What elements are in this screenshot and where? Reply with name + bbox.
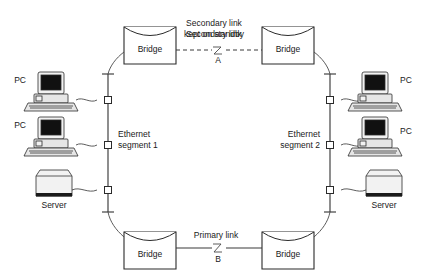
tap-connector-right-2[interactable] [327,142,334,149]
link-primary[interactable]: Primary link B [176,230,262,264]
bridge-top-left[interactable]: Bridge [124,27,176,64]
pc-right-1[interactable]: PC [341,72,412,111]
server-right-label: Server [371,200,396,210]
point-b-label: B [215,254,221,264]
tap-connector-left-3[interactable] [105,187,112,194]
pc-left-2[interactable]: PC [14,117,97,156]
tap-connector-left-2[interactable] [105,142,112,149]
server-left[interactable]: Server [36,170,97,210]
pc-right-2-label: PC [400,126,412,136]
pc-left-2-label: PC [14,120,26,130]
bridge-top-right[interactable]: Bridge [262,27,314,64]
point-a-label: A [215,55,221,65]
ethernet-segment-2-label-line1: Ethernet [288,129,321,139]
pc-left-1[interactable]: PC [14,72,97,111]
bridge-bottom-left[interactable]: Bridge [124,232,176,269]
tap-connector-right-3[interactable] [327,187,334,194]
ethernet-segment-2-label-line2: segment 2 [280,140,320,150]
pc-right-1-label: PC [400,75,412,85]
tap-connector-right-1[interactable] [327,97,334,104]
bridge-bottom-right[interactable]: Bridge [262,232,314,269]
secondary-link-subtitle: kept on standby [184,29,245,39]
bridge-top-left-label: Bridge [138,44,163,54]
bridge-bottom-right-label: Bridge [276,249,301,259]
pc-left-1-label: PC [14,75,26,85]
ethernet-segment-1-label-line2: segment 1 [118,140,158,150]
tap-connector-left-1[interactable] [105,97,112,104]
server-left-label: Server [41,200,66,210]
network-diagram: Bridge Bridge Bridge Bridge Secondary li… [0,0,428,279]
secondary-link-title: Secondary link [186,18,243,28]
bridge-top-right-label: Bridge [276,44,301,54]
bridge-bottom-left-label: Bridge [138,249,163,259]
primary-link-label: Primary link [194,230,239,240]
pc-right-2[interactable]: PC [341,117,412,156]
server-right[interactable]: Server [341,170,402,210]
ethernet-segment-1-label-line1: Ethernet [118,129,151,139]
